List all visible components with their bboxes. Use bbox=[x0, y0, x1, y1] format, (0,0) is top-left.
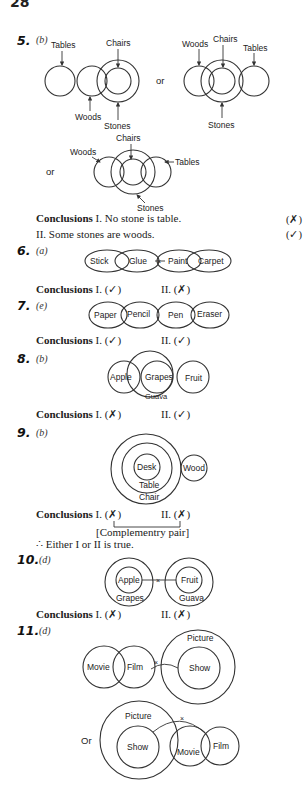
svg-text:Carpet: Carpet bbox=[198, 256, 224, 266]
separator-or-1: or bbox=[156, 75, 164, 86]
svg-text:Desk: Desk bbox=[137, 462, 157, 472]
label-tables: Tables bbox=[175, 157, 200, 167]
svg-text:Fruit: Fruit bbox=[185, 373, 203, 383]
svg-text:Grapes: Grapes bbox=[116, 593, 144, 603]
q5-diagram-2: Woods Chairs Tables Stones bbox=[182, 34, 269, 130]
label-chairs: Chairs bbox=[116, 133, 141, 143]
svg-text:Apple: Apple bbox=[110, 372, 132, 382]
svg-text:Picture: Picture bbox=[125, 711, 152, 721]
q5-conclusion-2-mark: (✓) bbox=[286, 228, 302, 240]
q7-conclusions: Conclusions I. (✓) bbox=[36, 334, 121, 347]
label-woods: Woods bbox=[182, 39, 208, 49]
q10-diagram: × Apple Grapes Fruit Guava bbox=[105, 558, 213, 606]
question-10-option: (d) bbox=[39, 554, 51, 565]
q10-conclusions: Conclusions I. (✗) bbox=[36, 608, 121, 621]
q7-diagram: Paper Pencil Pen Eraser bbox=[89, 302, 229, 328]
question-8-option: (b) bbox=[36, 353, 48, 364]
q7-conclusion-2: II. (✓) bbox=[161, 334, 190, 347]
q5-diagram-3: Chairs Woods Tables Stones bbox=[70, 133, 200, 213]
label-chairs: Chairs bbox=[106, 38, 131, 48]
label-stones: Stones bbox=[208, 120, 234, 130]
cross-icon: × bbox=[156, 577, 160, 584]
q10-conclusion-2: II. (✗) bbox=[161, 608, 190, 621]
question-6-option: (a) bbox=[36, 245, 48, 256]
q11-diagram-1: × Movie Film Picture Show bbox=[83, 630, 235, 704]
question-10-number: 10. bbox=[17, 552, 39, 567]
q6-conclusions: Conclusions I. (✓) bbox=[36, 283, 121, 296]
svg-text:Pen: Pen bbox=[168, 310, 183, 320]
label-woods: Woods bbox=[75, 112, 101, 122]
svg-text:Show: Show bbox=[189, 663, 211, 673]
question-8-number: 8. bbox=[17, 351, 30, 366]
svg-text:Glue: Glue bbox=[129, 256, 147, 266]
q6-conclusion-2: II. (✗) bbox=[161, 283, 190, 296]
svg-text:Chair: Chair bbox=[139, 492, 159, 502]
cross-icon: × bbox=[157, 258, 161, 265]
question-11-option: (d) bbox=[39, 625, 51, 636]
q5-conclusion-1-mark: (✗) bbox=[286, 213, 302, 225]
cross-icon: × bbox=[180, 715, 184, 722]
svg-text:Film: Film bbox=[127, 662, 143, 672]
q8-conclusions: Conclusions I. (✗) bbox=[36, 408, 121, 421]
label-woods: Woods bbox=[70, 147, 96, 157]
question-6-number: 6. bbox=[17, 243, 30, 258]
svg-text:Guava: Guava bbox=[179, 593, 204, 603]
svg-text:Eraser: Eraser bbox=[197, 309, 222, 319]
q5-conclusion-1: Conclusions I. No stone is table. bbox=[36, 212, 181, 224]
q5-conclusion-2: II. Some stones are woods. bbox=[36, 228, 155, 240]
svg-text:Wood: Wood bbox=[183, 463, 205, 473]
svg-text:Show: Show bbox=[127, 742, 149, 752]
q9-note: [Complementry pair] bbox=[96, 526, 189, 538]
question-11-number: 11. bbox=[17, 623, 39, 638]
q8-diagram: Apple Grapes Fruit Guava bbox=[108, 351, 209, 401]
label-tables: Tables bbox=[51, 40, 76, 50]
q6-diagram: Stick Glue Paint Carpet × bbox=[85, 250, 231, 272]
q9-result: ∴ Either I or II is true. bbox=[36, 538, 134, 551]
svg-text:Apple: Apple bbox=[118, 575, 140, 585]
question-9-option: (b) bbox=[36, 427, 48, 438]
label-stones: Stones bbox=[104, 121, 130, 131]
svg-text:Fruit: Fruit bbox=[181, 575, 199, 585]
separator-or-2: or bbox=[46, 166, 54, 177]
svg-text:Pencil: Pencil bbox=[127, 309, 150, 319]
svg-text:Paint: Paint bbox=[168, 256, 188, 266]
separator-or-3: Or bbox=[81, 735, 92, 746]
question-7-number: 7. bbox=[17, 298, 30, 313]
svg-text:Guava: Guava bbox=[145, 392, 168, 401]
q9-conclusions: Conclusions I. (✗) bbox=[36, 508, 121, 521]
svg-text:Grapes: Grapes bbox=[145, 372, 173, 382]
q5-diagram-1: Tables Chairs Woods Stones bbox=[45, 38, 139, 131]
q9-conclusion-2: II. (✗) bbox=[161, 508, 190, 521]
q11-diagram-2: × Picture Show Movie Film bbox=[100, 701, 239, 779]
venn-diagrams: Tables Chairs Woods Stones or Woods Chai… bbox=[0, 0, 308, 787]
q9-diagram: Desk Table Chair Wood bbox=[111, 434, 207, 504]
svg-text:Table: Table bbox=[139, 480, 160, 490]
cross-icon: × bbox=[154, 659, 158, 666]
q8-conclusion-2: II. (✓) bbox=[161, 408, 190, 421]
svg-text:Stick: Stick bbox=[90, 256, 109, 266]
svg-text:Movie: Movie bbox=[87, 662, 110, 672]
svg-text:Film: Film bbox=[213, 741, 229, 751]
label-chairs: Chairs bbox=[213, 34, 238, 44]
svg-text:Picture: Picture bbox=[187, 633, 214, 643]
svg-text:Movie: Movie bbox=[177, 747, 200, 757]
question-9-number: 9. bbox=[17, 425, 30, 440]
svg-text:Paper: Paper bbox=[94, 310, 117, 320]
question-7-option: (e) bbox=[36, 300, 47, 311]
label-tables: Tables bbox=[243, 43, 268, 53]
